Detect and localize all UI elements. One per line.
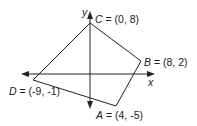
vertex-label-c: C = (0, 8) — [95, 14, 139, 25]
vertex-name-d: D — [9, 85, 17, 97]
vertex-coords-d: = (-9, -1) — [20, 85, 61, 97]
y-axis-up-arrow-icon — [87, 11, 93, 19]
y-axis-label: y — [82, 7, 87, 18]
vertex-label-b: B = (8, 2) — [144, 57, 188, 68]
vertex-coords-b: = (8, 2) — [154, 56, 188, 68]
vertex-label-a: A = (4, -5) — [96, 110, 143, 121]
vertex-label-d: D = (-9, -1) — [9, 86, 60, 97]
x-axis-label: x — [148, 77, 153, 88]
y-axis-down-arrow-icon — [87, 101, 93, 109]
vertex-coords-a: = (4, -5) — [106, 109, 143, 121]
vertex-name-b: B — [144, 56, 151, 68]
vertex-name-c: C — [95, 13, 103, 25]
x-axis-left-arrow-icon — [21, 71, 29, 77]
vertex-coords-c: = (0, 8) — [106, 13, 140, 25]
vertex-name-a: A — [96, 109, 103, 121]
